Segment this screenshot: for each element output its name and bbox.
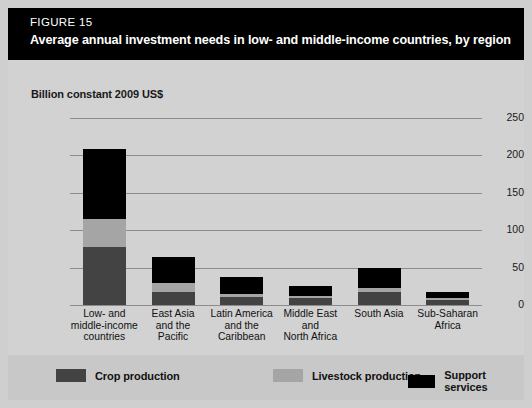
bar-group[interactable]: [220, 277, 263, 305]
legend-label: Crop production: [95, 370, 180, 382]
bar-segment[interactable]: [152, 257, 195, 283]
x-axis-category-label: Middle EastandNorth Africa: [276, 308, 345, 343]
bar-segment[interactable]: [83, 149, 126, 219]
bar-segment[interactable]: [426, 300, 469, 305]
y-axis-tick-label: 100: [478, 223, 524, 235]
bar-segment[interactable]: [152, 292, 195, 305]
legend-item[interactable]: Support services: [408, 369, 524, 393]
bar-group[interactable]: [426, 292, 469, 305]
legend-label: Support services: [444, 369, 524, 393]
legend-item[interactable]: Livestock production: [273, 369, 421, 382]
bar-group[interactable]: [289, 286, 332, 305]
figure-title: Average annual investment needs in low- …: [30, 32, 524, 49]
bar-segment[interactable]: [289, 286, 332, 296]
bar-segment[interactable]: [289, 298, 332, 305]
bar-segment[interactable]: [220, 297, 263, 305]
figure-number: FIGURE 15: [30, 15, 524, 30]
x-axis-category-label: South Asia: [345, 308, 414, 320]
y-axis-tick-label: 200: [478, 148, 524, 160]
figure-title-band: FIGURE 15 Average annual investment need…: [8, 8, 524, 60]
legend-label: Livestock production: [312, 370, 421, 382]
chart-plot-panel: Billion constant 2009 US$ 05010015020025…: [8, 60, 524, 355]
bar-segment[interactable]: [358, 268, 401, 288]
bar-segment[interactable]: [358, 292, 401, 305]
x-axis-category-label: Sub-SaharanAfrica: [413, 308, 482, 331]
x-axis-category-label: East Asiaand thePacific: [139, 308, 208, 343]
bar-segment[interactable]: [152, 283, 195, 292]
bar-segment[interactable]: [83, 219, 126, 247]
bar-group[interactable]: [83, 149, 126, 305]
figure-container: FIGURE 15 Average annual investment need…: [0, 0, 532, 408]
x-axis-category-label: Low- andmiddle-incomecountries: [70, 308, 139, 343]
legend-swatch: [273, 369, 303, 382]
chart-legend: Crop productionLivestock productionSuppo…: [8, 355, 524, 400]
y-axis-tick-label: 150: [478, 186, 524, 198]
chart-bars: Low- andmiddle-incomecountriesEast Asiaa…: [70, 60, 482, 355]
y-axis-tick-label: 0: [478, 298, 524, 310]
bar-group[interactable]: [358, 268, 401, 305]
legend-swatch: [56, 369, 86, 382]
y-axis-tick-label: 250: [478, 111, 524, 123]
x-axis-category-label: Latin Americaand theCaribbean: [207, 308, 276, 343]
y-axis-tick-label: 50: [478, 261, 524, 273]
bar-group[interactable]: [152, 257, 195, 305]
legend-item[interactable]: Crop production: [56, 369, 180, 382]
legend-swatch: [408, 375, 435, 388]
bar-segment[interactable]: [83, 247, 126, 305]
bar-segment[interactable]: [220, 277, 263, 294]
